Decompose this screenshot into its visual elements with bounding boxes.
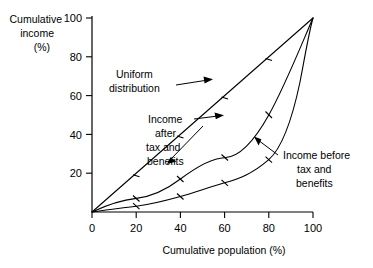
before-tax-leader-line [258,140,278,155]
lorenz-curve-figure: Cumulative income (%) 100 80 60 40 20 0 … [0,0,373,268]
y-tick-label-40: 40 [70,129,82,141]
y-tick-label-80: 80 [70,51,82,63]
x-tick-label-40: 40 [174,222,186,234]
after-tax-marker-80 [266,112,273,119]
x-tick-label-0: 0 [89,222,95,234]
before-tax-arrow-icon [254,137,261,146]
after-tax-label-line-1: Income [148,113,183,125]
before-tax-label-line-3: benefits [296,177,333,189]
series-uniform-distribution [92,18,313,212]
after-tax-leader-line-upper [194,116,218,119]
y-tick-label-20: 20 [70,167,82,179]
x-tick-label-100: 100 [304,222,322,234]
y-axis-title-line-3: (%) [34,41,50,53]
x-tick-label-80: 80 [263,222,275,234]
y-tick-label-100: 100 [64,12,82,24]
y-axis-title-line-1: Cumulative [9,13,62,25]
after-tax-arrow-icon-upper [215,112,225,119]
annotation-income-after-tax: Income after tax and benefits [146,112,224,167]
uniform-label-line-1: Uniform [116,68,153,80]
x-axis-title: Cumulative population (%) [162,244,285,256]
x-tick-label-20: 20 [130,222,142,234]
y-tick-label-60: 60 [70,90,82,102]
after-tax-label-line-4: benefits [147,155,184,167]
annotation-uniform-distribution: Uniform distribution [109,68,213,94]
y-axis-title-line-2: income [20,27,54,39]
uniform-arrow-icon [204,77,214,84]
uniform-distribution-line [92,18,313,212]
before-tax-label-line-1: Income before [283,149,350,161]
uniform-leader-line [176,80,208,85]
before-tax-label-line-2: tax and [297,163,332,175]
x-tick-label-60: 60 [218,222,230,234]
annotation-income-before-tax: Income before tax and benefits [254,137,350,190]
after-tax-label-line-3: tax and [146,141,181,153]
before-tax-marker-60 [222,180,229,186]
after-tax-label-line-2: after [155,127,177,139]
uniform-label-line-2: distribution [109,82,160,94]
chart-canvas: Cumulative income (%) 100 80 60 40 20 0 … [0,0,373,268]
before-tax-marker-40 [177,194,184,200]
